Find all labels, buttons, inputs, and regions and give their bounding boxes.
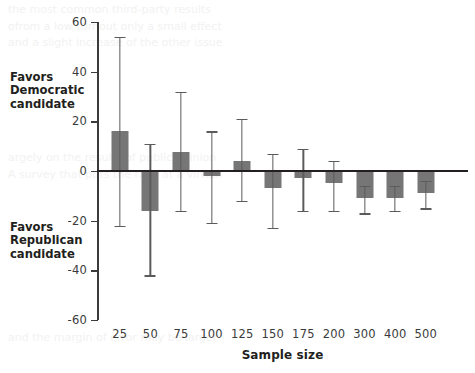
error-bar-cap-lower — [359, 213, 370, 214]
error-bar-cap-lower — [206, 223, 217, 224]
error-bar-line — [211, 131, 212, 223]
y-axis-tick-label: 20 — [49, 114, 87, 128]
error-bar-line — [303, 149, 304, 211]
x-axis-tick-label: 500 — [406, 327, 446, 341]
error-bar-cap-lower — [298, 211, 309, 212]
poll-margin-bar-chart: the most common third-party results ofro… — [0, 0, 475, 373]
error-bar-line — [180, 92, 181, 211]
y-axis-tick-label: 0 — [49, 164, 87, 178]
y-axis-tick: -60 — [0, 313, 87, 327]
error-bar-cap-upper — [359, 186, 370, 187]
y-axis-tick: 0 — [0, 164, 87, 178]
x-axis-title: Sample size — [97, 348, 468, 362]
error-bar-cap-upper — [145, 144, 156, 145]
error-bar-cap-lower — [420, 208, 431, 209]
error-bar-line — [242, 119, 243, 201]
error-bar-line — [333, 161, 334, 211]
error-bar-cap-lower — [237, 201, 248, 202]
error-bar-cap-upper — [390, 186, 401, 187]
error-bar-cap-lower — [114, 226, 125, 227]
y-axis-tick-label: -60 — [49, 313, 87, 327]
y-axis-tick-mark — [91, 270, 98, 271]
error-bar-line — [150, 144, 151, 276]
y-axis-tick-mark — [91, 22, 98, 23]
favors-democratic-label: Favors Democratic candidate — [10, 71, 96, 111]
error-bar-line — [119, 37, 120, 226]
error-bar-cap-lower — [267, 228, 278, 229]
y-axis-tick: -40 — [0, 263, 87, 277]
error-bar-cap-upper — [114, 37, 125, 38]
y-axis-tick-mark — [91, 121, 98, 122]
zero-baseline — [97, 170, 468, 172]
y-axis-tick-label: 60 — [49, 15, 87, 29]
error-bar-cap-lower — [328, 211, 339, 212]
error-bar-line — [425, 181, 426, 208]
error-bar-cap-upper — [298, 149, 309, 150]
error-bar-cap-upper — [175, 92, 186, 93]
error-bar-line — [364, 186, 365, 213]
error-bar-cap-upper — [267, 154, 278, 155]
error-bar-cap-lower — [390, 211, 401, 212]
y-axis-tick-label: -40 — [49, 263, 87, 277]
error-bar-cap-upper — [237, 119, 248, 120]
error-bar-cap-upper — [206, 131, 217, 132]
y-axis-tick: 60 — [0, 15, 87, 29]
error-bar-cap-upper — [420, 181, 431, 182]
favors-republican-label: Favors Republican candidate — [10, 221, 96, 261]
error-bar-line — [272, 154, 273, 229]
error-bar-cap-lower — [175, 211, 186, 212]
error-bar-cap-upper — [328, 161, 339, 162]
error-bar-cap-lower — [145, 275, 156, 276]
y-axis-tick: 20 — [0, 114, 87, 128]
y-axis-tick-mark — [91, 320, 98, 321]
error-bar-line — [395, 186, 396, 211]
